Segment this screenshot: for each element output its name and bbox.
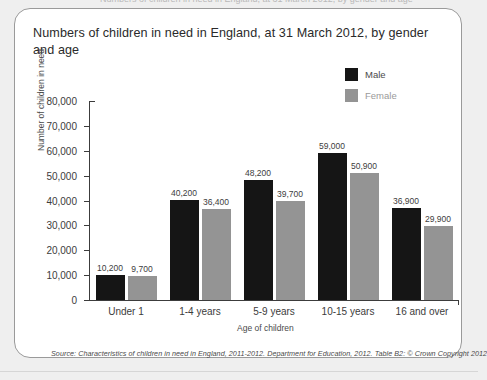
plot-area: 010,00020,00030,00040,00050,00060,00070,… xyxy=(89,101,459,300)
bar-value-label: 59,000 xyxy=(319,141,345,151)
clipped-text-sliver: Numbers of children in need in England, … xyxy=(0,0,478,7)
page-divider xyxy=(0,371,478,372)
bar-female: 39,700 xyxy=(276,201,305,300)
y-axis-tick-label: 40,000 xyxy=(46,195,77,206)
x-axis-category-label: 10-15 years xyxy=(322,306,375,317)
y-axis-tick-label: 10,000 xyxy=(46,270,77,281)
y-axis-tick xyxy=(84,275,90,276)
legend-swatch-male xyxy=(345,68,358,81)
y-axis-tick xyxy=(84,176,90,177)
y-axis-tick xyxy=(84,151,90,152)
y-axis-title: Number of children in need xyxy=(36,137,46,151)
x-axis-category-label: 16 and over xyxy=(396,306,449,317)
y-axis-tick xyxy=(84,300,90,301)
x-axis-title: Age of children xyxy=(237,323,294,333)
bar-male: 48,200 xyxy=(244,180,273,300)
y-axis-top-stub xyxy=(89,101,95,102)
x-axis-line xyxy=(89,300,459,301)
legend-item-male: Male xyxy=(345,66,445,83)
bar-male: 59,000 xyxy=(318,153,347,300)
bar-female: 9,700 xyxy=(128,276,157,300)
clipped-text: Numbers of children in need in England, … xyxy=(100,0,413,4)
y-axis-tick xyxy=(84,250,90,251)
bar-value-label: 9,700 xyxy=(131,264,152,274)
bar-value-label: 36,900 xyxy=(393,196,419,206)
chart-title: Numbers of children in need in England, … xyxy=(33,25,433,59)
bar-value-label: 48,200 xyxy=(245,168,271,178)
bar-male: 40,200 xyxy=(170,200,199,300)
bar-female: 29,900 xyxy=(424,226,453,300)
x-axis-category-label: 1-4 years xyxy=(179,306,221,317)
y-axis-title-text: Number of children in need xyxy=(36,137,46,151)
legend-label-female: Female xyxy=(365,90,397,101)
bar-value-label: 36,400 xyxy=(203,197,229,207)
source-note: Source: Characteristics of children in n… xyxy=(51,349,487,358)
x-axis-end-tick xyxy=(458,300,459,305)
bar-value-label: 39,700 xyxy=(277,189,303,199)
y-axis-tick-label: 70,000 xyxy=(46,120,77,131)
y-axis-tick-label: 20,000 xyxy=(46,245,77,256)
y-axis-tick-label: 30,000 xyxy=(46,220,77,231)
bar-value-label: 50,900 xyxy=(351,161,377,171)
y-axis-tick-label: 0 xyxy=(71,295,77,306)
chart-card: Numbers of children in need in England, … xyxy=(14,8,462,358)
y-axis-tick xyxy=(84,201,90,202)
legend-label-male: Male xyxy=(365,69,386,80)
x-axis-category-label: Under 1 xyxy=(108,306,144,317)
y-axis-tick-label: 50,000 xyxy=(46,170,77,181)
bar-female: 50,900 xyxy=(350,173,379,300)
bar-value-label: 10,200 xyxy=(97,263,123,273)
y-axis-tick xyxy=(84,126,90,127)
bar-male: 36,900 xyxy=(392,208,421,300)
y-axis-tick xyxy=(84,225,90,226)
bar-value-label: 40,200 xyxy=(171,188,197,198)
bar-male: 10,200 xyxy=(96,275,125,300)
y-axis-tick-label: 80,000 xyxy=(46,96,77,107)
bar-female: 36,400 xyxy=(202,209,231,300)
y-axis-tick-label: 60,000 xyxy=(46,145,77,156)
bar-value-label: 29,900 xyxy=(425,214,451,224)
x-axis-category-label: 5-9 years xyxy=(253,306,295,317)
